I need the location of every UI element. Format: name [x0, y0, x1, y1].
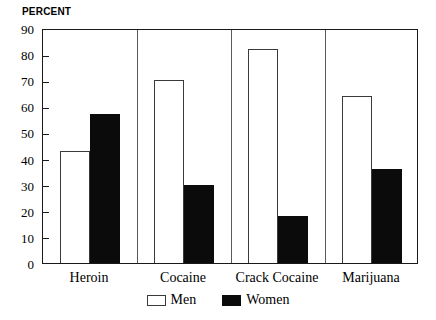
legend-label-men: Men	[171, 293, 197, 307]
bar-marijuana-women	[372, 169, 402, 263]
y-axis-tick-label: 90	[0, 23, 34, 36]
legend-label-women: Women	[246, 293, 289, 307]
y-axis-tick-mark	[43, 82, 49, 83]
legend-item-men: Men	[147, 293, 197, 307]
y-axis-title: PERCENT	[22, 6, 71, 17]
bar-marijuana-men	[342, 96, 372, 263]
legend-swatch-men	[147, 295, 166, 306]
y-axis-tick-label: 60	[0, 101, 34, 114]
y-axis-tick-label: 50	[0, 127, 34, 140]
y-axis-tick-label: 0	[0, 258, 34, 271]
group-divider	[137, 30, 138, 263]
group-divider	[231, 30, 232, 263]
x-axis-label-cocaine: Cocaine	[160, 270, 206, 286]
y-axis-tick-mark	[43, 212, 49, 213]
bar-crack-cocaine-women	[278, 216, 308, 263]
group-divider	[325, 30, 326, 263]
y-axis-tick-label: 20	[0, 205, 34, 218]
y-axis-tick-mark	[43, 56, 49, 57]
y-axis-tick-label: 80	[0, 49, 34, 62]
bar-cocaine-women	[184, 185, 214, 263]
bar-crack-cocaine-men	[248, 49, 278, 263]
y-axis-tick-label: 40	[0, 153, 34, 166]
y-axis-tick-mark	[43, 160, 49, 161]
bar-cocaine-men	[154, 80, 184, 263]
x-axis-label-heroin: Heroin	[70, 270, 109, 286]
y-axis-tick-label: 70	[0, 75, 34, 88]
y-axis-tick-mark	[43, 238, 49, 239]
y-axis-tick-label: 10	[0, 231, 34, 244]
x-axis-label-marijuana: Marijuana	[342, 270, 400, 286]
bar-heroin-women	[90, 114, 120, 263]
bar-chart: PERCENT 9080706050403020100 HeroinCocain…	[0, 0, 436, 320]
legend-swatch-women	[222, 295, 241, 306]
plot-area	[42, 29, 418, 264]
y-axis-tick-mark	[43, 186, 49, 187]
plot-inner	[43, 30, 417, 263]
bar-heroin-men	[60, 151, 90, 263]
y-axis-tick-mark	[43, 108, 49, 109]
legend-item-women: Women	[222, 293, 289, 307]
y-axis-tick-label: 30	[0, 179, 34, 192]
y-axis-tick-mark	[43, 134, 49, 135]
chart-legend: MenWomen	[0, 293, 436, 307]
x-axis-label-crack-cocaine: Crack Cocaine	[236, 270, 319, 286]
